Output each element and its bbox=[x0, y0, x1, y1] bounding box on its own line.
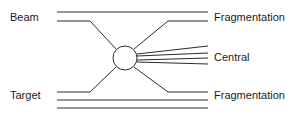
target-incoming-line bbox=[57, 67, 116, 92]
central-fan-lines bbox=[137, 46, 208, 64]
beam-lines bbox=[57, 12, 208, 49]
target-label: Target bbox=[10, 89, 41, 102]
fragmentation-bottom-outgoing-line bbox=[134, 67, 208, 92]
beam-label: Beam bbox=[10, 11, 39, 24]
collision-diagram: Beam Target Fragmentation Central Fragme… bbox=[0, 0, 308, 118]
interaction-vertex-circle bbox=[113, 46, 137, 70]
central-fan-line-1 bbox=[137, 46, 208, 54]
beam-incoming-line bbox=[57, 21, 116, 49]
fragmentation-top-outgoing-line bbox=[134, 21, 208, 49]
central-label: Central bbox=[214, 51, 249, 64]
fragmentation-top-label: Fragmentation bbox=[214, 11, 285, 24]
central-fan-line-4 bbox=[137, 62, 208, 64]
fragmentation-bottom-label: Fragmentation bbox=[214, 89, 285, 102]
central-fan-line-3 bbox=[137, 58, 208, 60]
fragmentation-outgoing-lines bbox=[134, 21, 208, 92]
central-fan-line-2 bbox=[137, 53, 208, 56]
target-lines bbox=[57, 67, 208, 108]
